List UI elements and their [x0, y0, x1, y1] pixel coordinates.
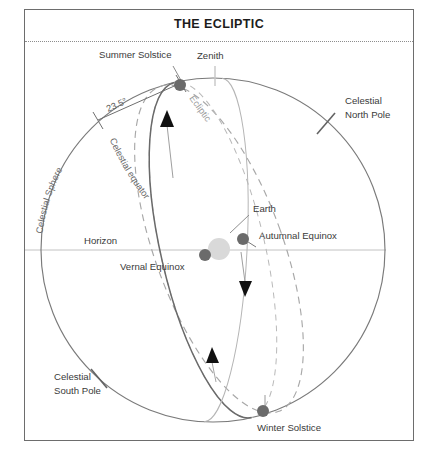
- label-celestial-sphere: Celestial Sphere: [34, 166, 64, 235]
- celestial-equator-front-arc: [124, 82, 252, 429]
- label-ecliptic-text: Ecliptic: [187, 94, 213, 124]
- motion-arrow-upper-shaft: [167, 125, 173, 178]
- celestial-sphere-diagram: Summer Solstice Zenith Celestial North P…: [0, 0, 436, 457]
- summer-solstice-dot: [174, 79, 186, 91]
- earth-disc: [208, 238, 230, 260]
- label-earth: Earth: [253, 203, 276, 214]
- label-horizon: Horizon: [84, 235, 117, 246]
- label-celestial-north-pole-line2: North Pole: [345, 109, 390, 120]
- label-autumnal-equinox: Autumnal Equinox: [259, 230, 337, 241]
- label-ecliptic: Ecliptic: [187, 94, 213, 124]
- vernal-equinox-dot: [199, 249, 211, 261]
- label-celestial-sphere-text: Celestial Sphere: [34, 166, 64, 235]
- label-winter-solstice: Winter Solstice: [257, 422, 321, 433]
- motion-arrow-lower-head: [206, 347, 219, 363]
- label-vernal-equinox: Vernal Equinox: [120, 261, 185, 272]
- earth-leader-line: [230, 215, 249, 233]
- motion-arrow-middle-head: [239, 281, 252, 297]
- label-celestial-north-pole-line1: Celestial: [345, 95, 382, 106]
- tilt-dimension-tick-left: [93, 112, 103, 129]
- label-zenith: Zenith: [197, 50, 224, 61]
- label-celestial-south-pole-line1: Celestial: [54, 371, 91, 382]
- motion-arrow-middle-shaft: [241, 252, 245, 282]
- label-celestial-equator-text: Celestial equator: [108, 136, 152, 200]
- winter-solstice-dot: [257, 405, 269, 417]
- celestial-north-pole-tick: [317, 113, 335, 134]
- motion-arrow-upper-head: [160, 110, 174, 127]
- diagram-page: THE ECLIPTIC: [0, 0, 436, 457]
- label-celestial-equator: Celestial equator: [108, 136, 152, 200]
- autumnal-equinox-dot: [237, 233, 249, 245]
- label-celestial-south-pole-line2: South Pole: [54, 385, 101, 396]
- label-summer-solstice: Summer Solstice: [99, 49, 172, 60]
